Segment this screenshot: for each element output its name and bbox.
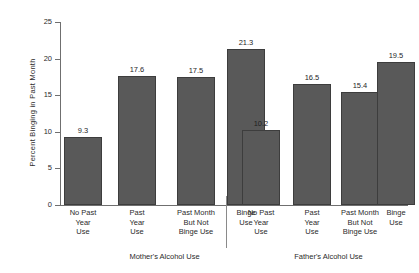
x-category-label: Past MonthBut NotBinge Use [170,208,222,237]
bar: 9.3 [64,137,102,205]
bar: 10.2 [242,130,280,205]
x-category-label: PastYearUse [286,208,338,237]
x-category-label-line: Binge Use [170,227,222,237]
x-category-label-line: Binge [370,208,419,218]
x-category-label-line: But Not [170,218,222,228]
x-category-label-line: Year [286,218,338,228]
y-tick-0: 0 [55,205,60,206]
x-category-label-line: Use [111,227,163,237]
y-axis-title: Percent Binging in Past Month [28,33,37,193]
x-category-label-line: Use [235,227,287,237]
x-category-label-line: Past Month [170,208,222,218]
x-category-label-line: Past [111,208,163,218]
bar: 17.5 [177,77,215,205]
y-tick-label: 0 [48,200,52,209]
bar: 16.5 [293,84,331,205]
bar: 15.4 [341,92,379,205]
bar: 19.5 [377,62,415,205]
y-tick-10: 10 [55,132,60,133]
y-tick-15: 15 [55,95,60,96]
x-axis-line [60,205,408,206]
x-category-label-line: No Past [57,208,109,218]
x-category-label-line: Year [57,218,109,228]
bar-value-label: 17.5 [189,66,204,75]
x-category-label-line: Past [286,208,338,218]
bar-value-label: 10.2 [254,119,269,128]
bar: 17.6 [118,76,156,205]
y-tick-label: 20 [44,54,52,63]
y-tick-label: 10 [44,127,52,136]
x-category-label-line: Binge Use [334,227,386,237]
x-category-label-line: No Past [235,208,287,218]
bar-value-label: 9.3 [78,126,88,135]
bar-value-label: 19.5 [389,51,404,60]
bar-value-label: 15.4 [353,81,368,90]
x-category-label-line: Use [370,218,419,228]
y-tick-25: 25 [55,22,60,23]
y-tick-label: 25 [44,17,52,26]
x-category-label: BingeUse [370,208,419,227]
bar-value-label: 21.3 [239,38,254,47]
x-category-label: No PastYearUse [57,208,109,237]
y-tick-5: 5 [55,168,60,169]
x-category-label-line: Use [57,227,109,237]
x-category-label-line: Year [235,218,287,228]
bar-value-label: 17.6 [130,65,145,74]
bar-value-label: 16.5 [305,73,320,82]
y-tick-20: 20 [55,59,60,60]
x-category-label: PastYearUse [111,208,163,237]
x-category-label-line: Year [111,218,163,228]
x-category-label: No PastYearUse [235,208,287,237]
y-tick-label: 15 [44,90,52,99]
y-tick-label: 5 [48,163,52,172]
y-axis-line [60,22,61,206]
x-category-label-line: Use [286,227,338,237]
group-caption-father: Father's Alcohol Use [229,252,419,261]
